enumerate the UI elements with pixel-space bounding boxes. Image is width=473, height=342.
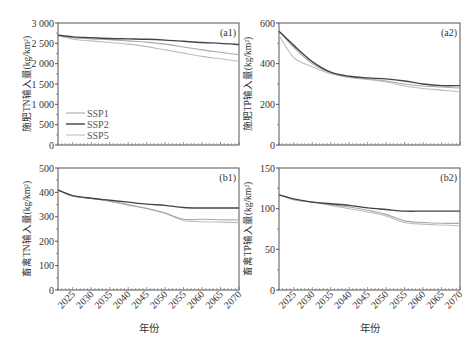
y-tick-label: 2 000 [32,58,55,69]
series-line-ssp1 [58,190,239,220]
series-group [279,31,460,92]
y-tick-label: 400 [260,58,275,69]
plot-frame [279,168,460,290]
series-line-ssp2 [58,35,239,44]
y-axis-title: 畜禽TN输入量(kg/km²) [21,181,33,277]
series-line-ssp1 [279,195,460,224]
x-tick-label: 2060 [406,289,428,311]
y-tick-label: 2 500 [32,38,55,49]
x-tick-label: 2045 [129,289,151,311]
x-tick-label: 2065 [203,289,225,311]
series-group [58,35,239,61]
series-line-ssp2 [58,190,239,208]
y-tick-label: 200 [39,236,54,247]
y-tick-label: 150 [260,163,275,174]
legend-label-ssp5: SSP5 [87,130,109,141]
series-line-ssp5 [58,190,239,223]
plot-frame [58,168,239,290]
y-tick-label: 0 [270,285,275,296]
panel-b1: 0100200300400500202520302035204020452050… [21,163,243,335]
x-tick-label: 2025 [276,289,298,311]
x-tick-label: 2055 [387,289,409,311]
y-tick-label: 500 [39,119,54,130]
x-tick-label: 2055 [166,289,188,311]
x-tick-label: 2060 [185,289,207,311]
y-tick-label: 1 500 [32,79,55,90]
y-axis: 0200400600 [260,18,279,151]
y-tick-label: 0 [49,140,54,151]
y-tick-label: 100 [39,260,54,271]
y-tick-label: 600 [260,18,275,29]
series-group [58,190,239,223]
y-axis: 05001 0001 5002 0002 5003 000 [32,18,59,151]
x-tick-label: 2035 [92,289,114,311]
legend: SSP1SSP2SSP5 [66,108,109,141]
series-line-ssp1 [279,31,460,88]
x-tick-label: 2040 [332,289,354,311]
x-tick-label: 2050 [148,289,170,311]
series-line-ssp1 [58,35,239,55]
x-axis-title: 年份 [139,322,160,334]
x-tick-label: 2035 [313,289,335,311]
plot-frame [58,23,239,145]
x-tick-label: 2025 [55,289,77,311]
x-tick-label: 2050 [369,289,391,311]
y-tick-label: 1 000 [32,99,55,110]
y-tick-label: 0 [49,285,54,296]
x-tick-label: 2030 [74,289,96,311]
y-tick-label: 300 [39,211,54,222]
x-axis: 2025203020352040204520502055206020652070… [276,287,464,334]
panel-a2: 0200400600施肥TP输入量(kg/km²)(a2) [242,18,460,151]
panel-tag: (a1) [220,27,236,39]
x-tick-label: 2070 [221,289,243,311]
y-tick-label: 500 [39,163,54,174]
y-tick-label: 50 [265,244,275,255]
x-tick-label: 2030 [295,289,317,311]
y-tick-label: 400 [39,187,54,198]
panel-tag: (b1) [219,172,236,184]
series-line-ssp5 [279,35,460,92]
panel-tag: (a2) [441,27,457,39]
panel-b2: 0501001502025203020352040204520502055206… [242,163,464,335]
x-tick-label: 2040 [111,289,133,311]
figure: 05001 0001 5002 0002 5003 000施肥TN输入量(kg/… [0,0,473,342]
x-tick-label: 2070 [442,289,464,311]
y-axis-title: 施肥TP输入量(kg/km²) [242,37,254,132]
y-axis: 050100150 [260,163,279,296]
y-tick-label: 0 [270,140,275,151]
plot-frame [279,23,460,145]
panel-tag: (b2) [440,172,457,184]
legend-label-ssp1: SSP1 [87,108,109,119]
x-axis-title: 年份 [360,322,381,334]
x-tick-label: 2065 [424,289,446,311]
y-tick-label: 3 000 [32,18,55,29]
y-axis: 0100200300400500 [39,163,58,296]
legend-label-ssp2: SSP2 [87,119,109,130]
panel-a1: 05001 0001 5002 0002 5003 000施肥TN输入量(kg/… [21,18,239,151]
series-group [279,195,460,226]
y-tick-label: 100 [260,203,275,214]
series-line-ssp2 [279,195,460,211]
y-axis-title: 畜禽TP输入量(kg/km²) [242,182,254,277]
x-axis: 2025203020352040204520502055206020652070… [55,287,243,334]
x-tick-label: 2045 [350,289,372,311]
y-axis-title: 施肥TN输入量(kg/km²) [21,36,33,132]
y-tick-label: 200 [260,99,275,110]
